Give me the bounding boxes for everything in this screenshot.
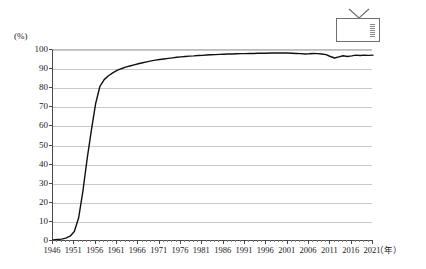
x-tick-1985 [218, 240, 219, 242]
x-tick-2010 [325, 240, 326, 242]
y-tick-label-100: 100 [6, 45, 48, 54]
y-tick-label-90: 90 [6, 64, 48, 73]
x-tick-2013 [338, 240, 339, 242]
y-tick-mark-60 [49, 125, 52, 126]
x-tick-2002 [291, 240, 292, 242]
x-tick-2016 [351, 240, 352, 244]
x-tick-2019 [363, 240, 364, 242]
x-tick-2017 [355, 240, 356, 242]
chart-root: (%) 1009080706050403020100 1946195119561… [0, 0, 426, 269]
x-tick-1980 [197, 240, 198, 242]
y-tick-label-0: 0 [6, 236, 48, 245]
x-tick-1986 [223, 240, 224, 244]
y-tick-label-30: 30 [6, 179, 48, 188]
x-tick-2014 [342, 240, 343, 242]
y-tick-label-50: 50 [6, 141, 48, 150]
y-tick-mark-40 [49, 164, 52, 165]
x-tick-1993 [253, 240, 254, 242]
x-tick-2008 [317, 240, 318, 242]
x-tick-2003 [295, 240, 296, 242]
y-tick-label-70: 70 [6, 102, 48, 111]
y-tick-mark-20 [49, 202, 52, 203]
x-tick-1984 [214, 240, 215, 242]
y-tick-label-20: 20 [6, 198, 48, 207]
x-tick-1972 [163, 240, 164, 242]
y-tick-mark-100 [49, 49, 52, 50]
x-tick-2005 [304, 240, 305, 242]
x-tick-2006 [308, 240, 309, 244]
x-tick-1946 [52, 240, 53, 244]
x-tick-2015 [346, 240, 347, 242]
series-tv-diffusion-rate [53, 50, 373, 241]
x-tick-1974 [171, 240, 172, 242]
x-axis-line [52, 240, 372, 241]
x-tick-1997 [270, 240, 271, 242]
x-tick-2011 [329, 240, 330, 244]
x-tick-1951 [73, 240, 74, 244]
x-tick-1947 [56, 240, 57, 242]
x-tick-2018 [359, 240, 360, 242]
x-axis-unit-label: （年） [375, 245, 402, 255]
television-icon [336, 8, 382, 42]
x-tick-1991 [244, 240, 245, 244]
x-tick-2004 [299, 240, 300, 242]
x-tick-1949 [65, 240, 66, 242]
x-tick-2009 [321, 240, 322, 242]
x-tick-1967 [142, 240, 143, 242]
x-tick-1968 [146, 240, 147, 242]
x-tick-1963 [125, 240, 126, 242]
x-tick-1964 [129, 240, 130, 242]
x-tick-1962 [120, 240, 121, 242]
x-tick-1960 [112, 240, 113, 242]
x-tick-1950 [69, 240, 70, 242]
x-tick-1992 [248, 240, 249, 242]
x-tick-1953 [82, 240, 83, 242]
y-tick-mark-90 [49, 68, 52, 69]
tv-speaker-grille-icon [370, 24, 375, 37]
x-tick-1996 [265, 240, 266, 244]
x-tick-1979 [193, 240, 194, 242]
y-tick-label-40: 40 [6, 160, 48, 169]
plot-area [52, 49, 372, 240]
x-tick-1948 [61, 240, 62, 242]
x-tick-1989 [235, 240, 236, 242]
x-tick-1966 [137, 240, 138, 244]
x-tick-1970 [154, 240, 155, 242]
y-tick-label-60: 60 [6, 121, 48, 130]
y-tick-mark-50 [49, 145, 52, 146]
x-tick-2007 [312, 240, 313, 242]
x-tick-1988 [231, 240, 232, 242]
x-tick-1994 [257, 240, 258, 242]
x-tick-1955 [90, 240, 91, 242]
y-axis-unit-label: (%) [14, 31, 28, 41]
x-tick-1959 [107, 240, 108, 242]
x-tick-1965 [133, 240, 134, 242]
y-tick-mark-70 [49, 106, 52, 107]
x-tick-1987 [227, 240, 228, 242]
x-tick-1999 [278, 240, 279, 242]
x-tick-1978 [189, 240, 190, 242]
x-tick-1976 [180, 240, 181, 244]
x-tick-2020 [368, 240, 369, 242]
x-tick-2021 [372, 240, 373, 244]
y-tick-mark-30 [49, 183, 52, 184]
x-tick-2012 [334, 240, 335, 242]
y-tick-label-10: 10 [6, 217, 48, 226]
x-tick-1973 [167, 240, 168, 242]
x-tick-1961 [116, 240, 117, 244]
x-tick-1975 [176, 240, 177, 242]
x-tick-1995 [261, 240, 262, 242]
y-tick-label-80: 80 [6, 83, 48, 92]
x-tick-1952 [78, 240, 79, 242]
x-tick-1956 [95, 240, 96, 244]
x-tick-1971 [159, 240, 160, 244]
x-tick-1977 [184, 240, 185, 242]
series-line-0 [53, 53, 373, 240]
tv-screen [336, 18, 380, 42]
y-tick-mark-80 [49, 87, 52, 88]
x-tick-1982 [206, 240, 207, 242]
y-tick-mark-10 [49, 221, 52, 222]
x-tick-1954 [86, 240, 87, 242]
x-tick-1957 [99, 240, 100, 242]
x-tick-1998 [274, 240, 275, 242]
